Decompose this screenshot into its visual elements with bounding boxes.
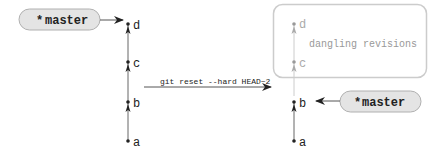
commit-dot-b-right [292, 100, 296, 104]
commit-label-a-right: a [299, 136, 306, 150]
commit-dot-a-right [292, 139, 296, 143]
branch-marker-left: * [36, 14, 43, 28]
commit-label-c: c [133, 57, 140, 71]
commit-label-d-dangling: d [299, 18, 306, 32]
git-reset-diagram: a b c d * master git reset --hard HEAD~2… [0, 0, 443, 152]
right-graph: dangling revisions d c b a * master [274, 5, 427, 151]
command-transition: git reset --hard HEAD~2 [144, 77, 271, 87]
command-text: git reset --hard HEAD~2 [160, 77, 271, 86]
commit-label-d: d [133, 19, 140, 33]
commit-dot-d [126, 22, 130, 26]
left-graph: a b c d * master [19, 9, 140, 150]
branch-label-left: master [45, 14, 88, 28]
branch-marker-right: * [354, 96, 361, 110]
commit-label-c-dangling: c [299, 57, 306, 71]
commit-dot-c [126, 60, 130, 64]
commit-dot-b [126, 100, 130, 104]
branch-label-right: master [362, 96, 405, 110]
commit-label-a: a [133, 136, 140, 150]
dangling-label: dangling revisions [309, 39, 417, 50]
commit-dot-a [126, 139, 130, 143]
commit-dot-d-dangling [292, 22, 296, 26]
commit-label-b-right: b [299, 97, 306, 111]
commit-dot-c-dangling [292, 60, 296, 64]
commit-label-b: b [133, 97, 140, 111]
